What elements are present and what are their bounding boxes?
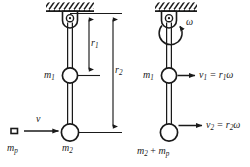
equation-v1: v1 = r1ω xyxy=(199,70,233,82)
mass-m1-bob-left xyxy=(62,68,77,83)
panel-before xyxy=(11,3,122,142)
diagram-canvas xyxy=(0,0,250,167)
label-r2: r2 xyxy=(115,65,123,77)
label-m1-left: m1 xyxy=(44,70,55,82)
label-v: v xyxy=(36,114,40,124)
label-m2-left: m2 xyxy=(62,143,73,155)
label-mp: mp xyxy=(7,143,18,155)
mass-m2-mp-bob-right xyxy=(160,124,177,141)
figure-root: m1 m2 mp v r1 r2 ω m1 m2 + mp v1 = r1ω v… xyxy=(0,0,250,167)
panel-after xyxy=(155,3,202,142)
label-m2-plus-mp: m2 + mp xyxy=(137,146,169,158)
projectile-mp-block xyxy=(11,129,18,134)
ceiling-support-left xyxy=(46,3,94,12)
label-m1-right: m1 xyxy=(143,70,154,82)
ceiling-support-right xyxy=(155,3,197,12)
pivot-bracket-right xyxy=(162,11,177,28)
mass-m1-bob-right xyxy=(161,68,176,83)
mass-m2-bob-left xyxy=(61,124,78,141)
label-r1: r1 xyxy=(91,38,99,50)
equation-v2: v2 = r2ω xyxy=(206,120,240,132)
label-omega: ω xyxy=(186,17,193,27)
